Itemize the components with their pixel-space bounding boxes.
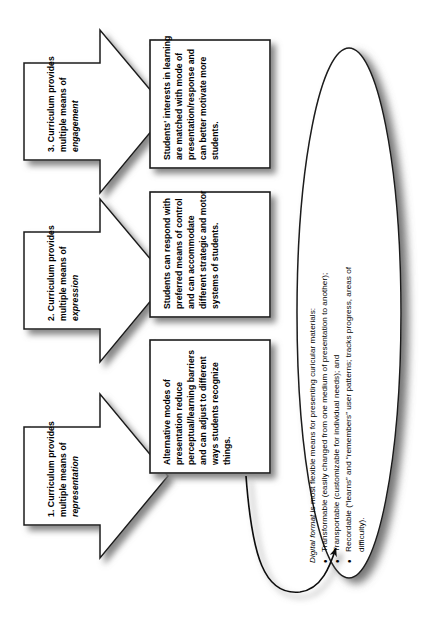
box-1-line-4: and can adjust to different xyxy=(197,347,209,465)
oval-text: Digital format is most flexible means fo… xyxy=(307,67,368,563)
arrow-label-3-line1: 3. Curriculum provides xyxy=(46,42,58,152)
arrow-label-1-line3: representation xyxy=(70,456,80,517)
arrow-label-2: 2. Curriculum provides multiple means of… xyxy=(46,211,82,321)
box-1-line-2: presentation reduce xyxy=(173,347,185,465)
box-3-line-5: students. xyxy=(209,42,221,160)
box-1-line-1: Alternative modes of xyxy=(161,347,173,465)
box-1-line-5: ways students recognize xyxy=(209,347,221,465)
oval-bullet-list: Transformable (easily changed from one m… xyxy=(319,67,368,563)
box-2-line-2: preferred means of control xyxy=(173,191,185,309)
arrow-label-1-line2: multiple means of xyxy=(58,407,70,517)
oval-heading: Digital format is most flexible means fo… xyxy=(307,67,319,563)
box-text-2: Students can respond with preferred mean… xyxy=(161,191,221,309)
arrow-label-1: 1. Curriculum provides multiple means of… xyxy=(46,407,82,517)
arrow-label-3-line3: engagement xyxy=(70,100,80,152)
box-3-line-4: can better motivate more xyxy=(197,42,209,160)
oval-heading-italic: Digital format xyxy=(308,515,317,563)
diagram-canvas: 3. Curriculum provides multiple means of… xyxy=(0,0,432,644)
box-3-line-3: presentation/response and xyxy=(185,42,197,160)
box-text-1: Alternative modes of presentation reduce… xyxy=(161,347,233,465)
oval-bullet-3: Recordable (“learns” and “remembers” use… xyxy=(343,67,355,563)
arrow-label-3-line2: multiple means of xyxy=(58,42,70,152)
box-3-line-1: Students' interests in learning xyxy=(161,42,173,160)
arrow-label-1-line1: 1. Curriculum provides xyxy=(46,407,58,517)
oval-bullet-1: Transformable (easily changed from one m… xyxy=(319,67,331,563)
arrow-label-3: 3. Curriculum provides multiple means of… xyxy=(46,42,82,152)
box-2-line-5: systems of students. xyxy=(209,191,221,309)
arrow-label-2-line1: 2. Curriculum provides xyxy=(46,211,58,321)
box-2-line-1: Students can respond with xyxy=(161,191,173,309)
oval-bullet-3-continued: difficulty). xyxy=(357,517,366,552)
oval-heading-rest: is most flexible means for presenting cu… xyxy=(308,308,317,515)
oval-bullet-2: Transportable (customizable for individu… xyxy=(331,67,343,563)
box-2-line-4: different strategic and motor xyxy=(197,191,209,309)
box-text-3: Students' interests in learning are matc… xyxy=(161,42,221,160)
box-2-line-3: and can accommodate xyxy=(185,191,197,309)
box-1-line-6: things. xyxy=(221,347,233,465)
arrow-label-2-line3: expression xyxy=(70,275,80,321)
box-3-line-2: are matched with mode of xyxy=(173,42,185,160)
arrow-label-2-line2: multiple means of xyxy=(58,211,70,321)
box-1-line-3: perceptual/learning barriers xyxy=(185,347,197,465)
